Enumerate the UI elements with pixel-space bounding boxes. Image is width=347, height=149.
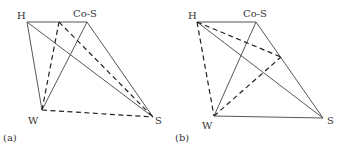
vertex-label-w: W — [28, 115, 39, 126]
edge-cos-w — [214, 22, 256, 116]
edge-w-s — [214, 116, 323, 118]
panel-a: H Co-S W S (a) — [3, 8, 162, 143]
vertex-label-s: S — [155, 115, 162, 126]
vertex-label-cos: Co-S — [73, 8, 97, 19]
edge-cos-s — [87, 22, 153, 117]
vertex-label-cos: Co-S — [243, 8, 267, 19]
panel-caption-a: (a) — [3, 132, 17, 143]
panel-caption-b: (b) — [175, 132, 189, 143]
edge-cos-w — [42, 22, 87, 110]
edge-h-s — [197, 22, 323, 118]
dashed-edge-w-s — [42, 110, 153, 117]
vertex-label-s: S — [327, 115, 334, 126]
vertex-label-h: H — [17, 10, 26, 21]
panel-b: H Co-S W S (b) — [175, 8, 334, 143]
tetrahedron-diagram: H Co-S W S (a) H Co-S W S (b) — [0, 0, 347, 149]
dashed-edge-p-s — [59, 22, 153, 117]
dashed-edge-w-q — [214, 57, 281, 116]
edge-h-w — [27, 22, 42, 110]
vertex-label-h: H — [188, 10, 197, 21]
vertex-label-w: W — [202, 120, 213, 131]
dashed-edge-h-w — [197, 22, 214, 116]
